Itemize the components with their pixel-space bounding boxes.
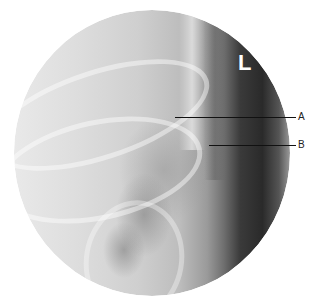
leader-line-a — [175, 117, 296, 118]
leader-line-b — [209, 145, 296, 146]
annotation-label-b: B — [298, 140, 305, 150]
annotation-label-a: A — [298, 112, 305, 122]
side-marker: L — [238, 52, 251, 74]
